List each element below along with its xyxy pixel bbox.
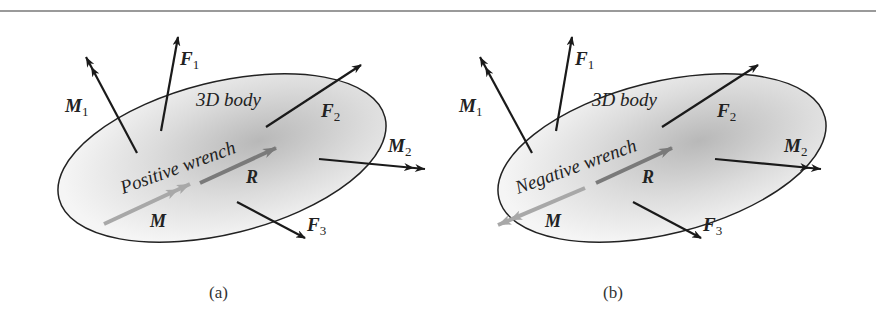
body-label: 3D body — [195, 89, 261, 110]
moment-m1-arrow — [480, 57, 532, 153]
label-f1: F1 — [179, 48, 199, 72]
label-f3: F3 — [306, 214, 326, 238]
body-label: 3D body — [591, 89, 657, 110]
caption-b: (b) — [603, 283, 623, 303]
body-ellipse — [481, 44, 844, 273]
label-f1: F1 — [574, 48, 594, 72]
panel-a: 3D body Positive wrench M1 F1 F2 M2 F3 R… — [41, 37, 425, 272]
label-m1: M1 — [458, 95, 482, 119]
label-m1: M1 — [64, 95, 88, 119]
label-m: M — [544, 211, 562, 231]
wrench-diagram: 3D body Positive wrench M1 F1 F2 M2 F3 R… — [0, 0, 887, 310]
label-m: M — [149, 211, 167, 231]
label-r: R — [641, 167, 654, 187]
label-m2: M2 — [387, 135, 411, 159]
panel-b: 3D body Negative wrench M1 F1 F2 M2 F3 R… — [458, 37, 843, 272]
caption-a: (a) — [209, 283, 228, 303]
label-r: R — [245, 167, 258, 187]
